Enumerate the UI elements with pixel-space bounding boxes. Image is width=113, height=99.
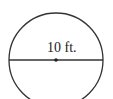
circle-diagram: 10 ft. [0, 0, 113, 99]
circle-outline [9, 13, 103, 99]
diameter-label: 10 ft. [47, 40, 77, 55]
center-point [54, 58, 58, 62]
